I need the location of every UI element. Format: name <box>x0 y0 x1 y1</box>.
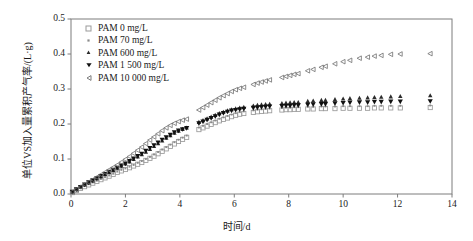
filled-triangle-up-marker-icon <box>82 49 95 56</box>
x-tick-label: 14 <box>438 199 466 209</box>
series-1 <box>71 105 431 194</box>
y-tick-label: 0.4 <box>29 48 65 58</box>
x-tick-label: 8 <box>275 199 303 209</box>
legend-label-pam-10000: PAM 10 000 mg/L <box>98 72 169 84</box>
filled-triangle-down-marker-icon <box>82 61 95 69</box>
x-tick-label: 2 <box>111 199 139 209</box>
legend-label-pam-70: PAM 70 mg/L <box>98 34 153 46</box>
y-tick-label: 0.5 <box>29 13 65 23</box>
y-tick-label: 0.2 <box>29 118 65 128</box>
series-2 <box>70 93 432 193</box>
series-0 <box>70 105 432 194</box>
legend-item-pam-70: PAM 70 mg/L <box>82 34 169 46</box>
y-tick-label: 0.3 <box>29 83 65 93</box>
y-tick-label: 0.0 <box>29 188 65 198</box>
x-tick-label: 0 <box>57 199 85 209</box>
legend-label-pam-0: PAM 0 mg/L <box>98 22 148 34</box>
legend-item-pam-600: PAM 600 mg/L <box>82 47 169 59</box>
legend-label-pam-1500: PAM 1 500 mg/L <box>98 59 164 71</box>
open-triangle-left-marker-icon <box>82 74 95 82</box>
chart-legend: PAM 0 mg/L PAM 70 mg/L PAM 600 mg/L PAM … <box>82 22 169 84</box>
open-square-marker-icon <box>82 25 95 32</box>
x-tick-label: 4 <box>166 199 194 209</box>
legend-item-pam-0: PAM 0 mg/L <box>82 22 169 34</box>
x-axis-title: 时间/d <box>0 218 473 233</box>
figure-container: 单位VS加入量累积产气率/(L·g) 时间/d PAM 0 mg/L PAM 7… <box>0 0 473 241</box>
dot-marker-icon <box>82 37 95 44</box>
x-tick-label: 12 <box>384 199 412 209</box>
x-tick-label: 10 <box>329 199 357 209</box>
legend-item-pam-1500: PAM 1 500 mg/L <box>82 59 169 71</box>
legend-item-pam-10000: PAM 10 000 mg/L <box>82 72 169 84</box>
y-tick-label: 0.1 <box>29 153 65 163</box>
legend-label-pam-600: PAM 600 mg/L <box>98 47 157 59</box>
x-tick-label: 6 <box>220 199 248 209</box>
